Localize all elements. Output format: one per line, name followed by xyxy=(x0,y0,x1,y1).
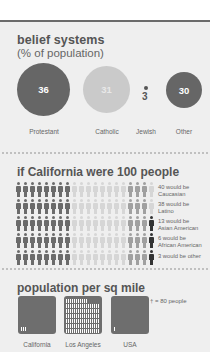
person-tick-icon xyxy=(76,299,77,303)
person-tick-icon xyxy=(86,324,87,328)
person-tick-icon xyxy=(88,314,89,318)
person-tick-icon xyxy=(94,309,95,313)
person-tick-icon xyxy=(68,309,69,313)
person-tick-icon xyxy=(88,324,89,328)
person-tick-icon xyxy=(94,319,95,323)
person-icon xyxy=(99,250,106,265)
person-icon xyxy=(22,182,29,197)
person-icon xyxy=(78,216,85,231)
california-label: California xyxy=(12,341,62,348)
person-icon xyxy=(141,182,148,197)
person-tick-icon xyxy=(80,314,81,318)
person-tick-icon xyxy=(82,324,83,328)
person-icon xyxy=(134,233,141,248)
person-icon xyxy=(120,199,127,214)
person-tick-icon xyxy=(90,304,91,308)
person-icon xyxy=(43,182,50,197)
person-icon xyxy=(92,233,99,248)
jewish-value: 3 xyxy=(142,91,148,102)
person-tick-icon xyxy=(25,327,26,331)
person-icon xyxy=(50,182,57,197)
person-icon xyxy=(127,250,134,265)
person-tick-icon xyxy=(80,324,81,328)
person-icon xyxy=(120,182,127,197)
person-tick-icon xyxy=(78,329,79,333)
person-icon xyxy=(64,216,71,231)
person-tick-icon xyxy=(94,324,95,328)
person-tick-icon xyxy=(72,314,73,318)
person-tick-icon xyxy=(78,319,79,323)
person-tick-icon xyxy=(92,324,93,328)
person-icon xyxy=(78,199,85,214)
person-tick-icon xyxy=(68,324,69,328)
person-tick-icon xyxy=(76,309,77,313)
person-icon xyxy=(29,216,36,231)
person-icon xyxy=(148,216,155,231)
person-icon xyxy=(127,216,134,231)
person-icon xyxy=(92,250,99,265)
jewish-dot xyxy=(144,86,148,90)
person-tick-icon xyxy=(86,319,87,323)
person-tick-icon xyxy=(66,314,67,318)
person-icon xyxy=(22,233,29,248)
person-tick-icon xyxy=(94,314,95,318)
person-tick-icon xyxy=(72,299,73,303)
person-tick-icon xyxy=(70,324,71,328)
person-tick-icon xyxy=(80,329,81,333)
person-tick-icon xyxy=(74,329,75,333)
person-tick-icon xyxy=(66,329,67,333)
other-label: Other xyxy=(166,128,202,135)
dotted-separator xyxy=(2,152,208,154)
person-icon xyxy=(22,199,29,214)
person-icon xyxy=(64,182,71,197)
person-tick-icon xyxy=(84,319,85,323)
california-100-title: if California were 100 people xyxy=(17,165,179,179)
person-icon xyxy=(148,182,155,197)
usa-density-box xyxy=(111,296,149,334)
person-icon xyxy=(64,199,71,214)
usa-label: USA xyxy=(105,341,155,348)
person-tick-icon xyxy=(66,319,67,323)
person-icon xyxy=(78,250,85,265)
dotted-separator xyxy=(2,268,208,270)
person-icon xyxy=(71,250,78,265)
person-icon xyxy=(15,250,22,265)
person-tick-icon xyxy=(78,314,79,318)
person-tick-icon xyxy=(70,299,71,303)
person-tick-icon xyxy=(82,329,83,333)
person-tick-icon xyxy=(68,319,69,323)
person-icon xyxy=(57,216,64,231)
person-tick-icon xyxy=(78,299,79,303)
person-icon xyxy=(43,216,50,231)
person-tick-icon xyxy=(76,304,77,308)
person-icon xyxy=(134,182,141,197)
person-icon xyxy=(64,233,71,248)
person-icon xyxy=(50,216,57,231)
people-row xyxy=(15,216,155,233)
person-tick-icon xyxy=(80,319,81,323)
person-tick-icon xyxy=(72,309,73,313)
person-icon xyxy=(113,199,120,214)
belief-systems-title: belief systems xyxy=(17,33,105,47)
person-tick-icon xyxy=(70,329,71,333)
person-icon xyxy=(36,250,43,265)
person-icon xyxy=(106,250,113,265)
population-density-title: population per sq mile xyxy=(17,281,145,295)
person-tick-icon xyxy=(98,304,99,308)
person-tick-icon xyxy=(76,324,77,328)
person-tick-icon xyxy=(70,304,71,308)
person-icon xyxy=(29,199,36,214)
person-tick-icon xyxy=(70,314,71,318)
person-icon xyxy=(50,199,57,214)
person-icon xyxy=(106,233,113,248)
person-tick-icon xyxy=(86,329,87,333)
person-icon xyxy=(148,250,155,265)
jewish-label: Jewish xyxy=(132,128,160,135)
people-pictogram-grid xyxy=(15,182,155,267)
legend-line: 3 would be other xyxy=(158,253,201,260)
person-icon xyxy=(92,216,99,231)
person-icon xyxy=(57,250,64,265)
belief-systems-subtitle: (% of population) xyxy=(17,47,104,59)
person-icon xyxy=(120,233,127,248)
other-bubble: 30 xyxy=(166,72,202,108)
